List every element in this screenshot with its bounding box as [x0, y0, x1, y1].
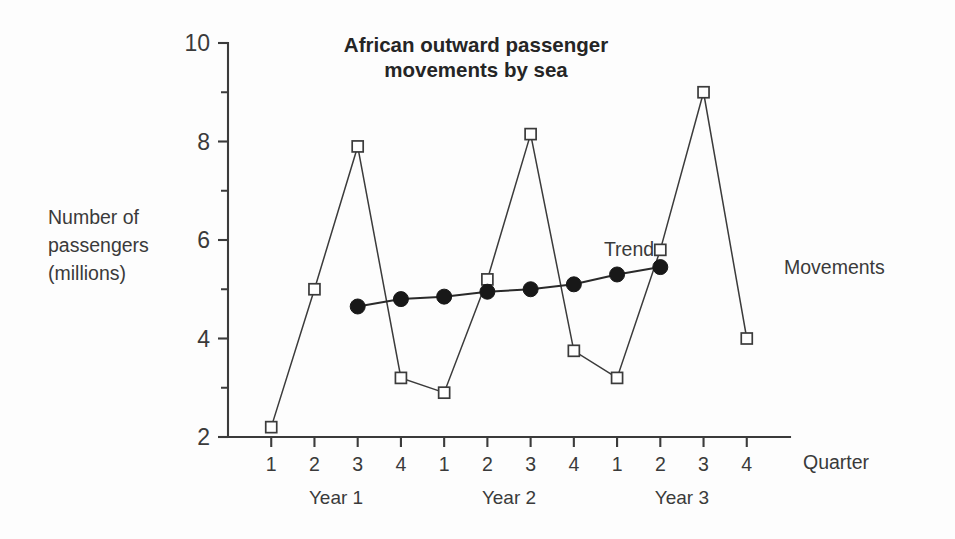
x-tick-label: 1	[439, 453, 450, 475]
movements-marker	[352, 141, 363, 152]
x-axis-tick-labels: 123412341234	[266, 453, 753, 475]
y-axis-tick-labels: 246810	[184, 30, 210, 450]
chart-title-line-1: African outward passenger	[344, 33, 608, 56]
series-movements	[266, 87, 753, 433]
trend-marker	[393, 292, 408, 307]
x-tick-label: 4	[395, 453, 406, 475]
x-tick-label: 2	[655, 453, 666, 475]
x-axis-title: Quarter	[803, 451, 870, 473]
movements-marker	[655, 244, 666, 255]
x-tick-label: 3	[525, 453, 536, 475]
y-axis-title-line-2: passengers	[48, 234, 149, 256]
movements-line	[271, 92, 747, 427]
x-axis-ticks	[271, 437, 747, 447]
x-tick-label: 1	[266, 453, 277, 475]
x-tick-label: 4	[741, 453, 752, 475]
annotation-trend: Trend	[604, 238, 654, 260]
trend-marker	[610, 267, 625, 282]
movements-marker	[568, 345, 579, 356]
x-tick-label: 2	[482, 453, 493, 475]
x-tick-label: 1	[612, 453, 623, 475]
y-tick-label: 10	[184, 30, 210, 56]
trend-marker	[437, 289, 452, 304]
y-axis-title-line-3: (millions)	[48, 262, 126, 284]
y-tick-label: 6	[197, 227, 210, 253]
x-tick-label: 3	[352, 453, 363, 475]
movements-marker	[395, 372, 406, 383]
y-axis-title-line-1: Number of	[48, 206, 140, 228]
y-tick-label: 8	[197, 129, 210, 155]
y-tick-label: 4	[197, 326, 210, 352]
y-tick-label: 2	[197, 424, 210, 450]
x-axis-group-label: Year 1	[309, 487, 363, 508]
trend-marker	[523, 282, 538, 297]
chart-container: 246810 123412341234 Year 1Year 2Year 3 A…	[0, 0, 955, 539]
annotation-movements: Movements	[784, 256, 885, 278]
chart-title-line-2: movements by sea	[384, 58, 568, 81]
movements-marker	[482, 274, 493, 285]
movements-marker	[266, 422, 277, 433]
x-axis-group-label: Year 3	[655, 487, 709, 508]
movements-markers	[266, 87, 753, 433]
y-axis-ticks	[218, 43, 228, 437]
chart-canvas: 246810 123412341234 Year 1Year 2Year 3 A…	[0, 0, 955, 539]
trend-marker	[480, 284, 495, 299]
movements-marker	[525, 129, 536, 140]
x-axis-group-labels: Year 1Year 2Year 3	[309, 487, 709, 508]
trend-markers	[350, 260, 668, 314]
x-axis-group-label: Year 2	[482, 487, 536, 508]
x-tick-label: 3	[698, 453, 709, 475]
x-tick-label: 4	[568, 453, 579, 475]
movements-marker	[439, 387, 450, 398]
movements-marker	[741, 333, 752, 344]
movements-marker	[698, 87, 709, 98]
movements-marker	[309, 284, 320, 295]
trend-marker	[653, 260, 668, 275]
trend-marker	[350, 299, 365, 314]
trend-marker	[566, 277, 581, 292]
series-trend	[350, 260, 668, 314]
movements-marker	[612, 372, 623, 383]
x-tick-label: 2	[309, 453, 320, 475]
